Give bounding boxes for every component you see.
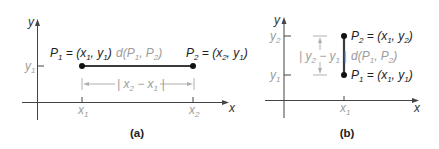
panel-a-dimension-right-arrow-icon: [187, 82, 193, 86]
panel-b-y2-tick-label: y2: [269, 29, 281, 45]
panel-a-x-axis-label: x: [228, 101, 236, 115]
panel-b-point-p1: [341, 72, 347, 78]
panel-a-point-p2: [190, 63, 196, 69]
panel-b-p2-label: P2 = (x1, y2): [351, 29, 413, 45]
panel-a-dimension-left-arrow-icon: [83, 82, 89, 86]
panel-a-distance-label: d(P1, P2): [116, 46, 162, 62]
panel-b-dimension-up-arrow-icon: [318, 37, 322, 43]
panel-a-p2-label: P2 = (x2, y1): [186, 46, 248, 62]
panel-b-y1-tick-label: y1: [269, 68, 280, 84]
panel-a-point-p1: [79, 63, 85, 69]
panel-b-y-axis-label: y: [273, 13, 281, 27]
panel-b-point-p2: [341, 33, 347, 39]
panel-a-p1-label: P1 = (x1, y1): [50, 46, 112, 62]
panel-a-y-axis-arrow-icon: [35, 19, 40, 26]
panel-b-p1-label: P1 = (x1, y1): [351, 68, 413, 84]
panel-b-dimension-down-arrow-icon: [318, 68, 322, 74]
panel-b-x1-tick-label: x1: [339, 101, 350, 117]
panel-b-y-axis-arrow-icon: [282, 17, 287, 24]
panel-a-y-axis-label: y: [27, 15, 35, 29]
panel-a-caption: (a): [130, 127, 144, 139]
panel-b-difference-label: | y2 − y1 |: [299, 49, 347, 65]
panel-b-caption: (b): [340, 127, 355, 139]
panel-a-x1-tick-label: x1: [77, 103, 88, 119]
panel-a-y1-tick-label: y1: [24, 59, 35, 75]
distance-formula-figure: y x y1 x1 x2 P1 = (x1, y1) d(P1, P2) P2 …: [0, 0, 439, 149]
panel-a-difference-label: | x2 − x1 |: [117, 77, 165, 93]
panel-a-x2-tick-label: x2: [188, 103, 200, 119]
panel-a-horizontal-distance: y x y1 x1 x2 P1 = (x1, y1) d(P1, P2) P2 …: [22, 15, 248, 139]
panel-b-x-axis-label: x: [413, 101, 421, 115]
panel-a-x-axis-arrow-icon: [222, 100, 229, 105]
panel-b-vertical-distance: y x y2 y1 x1 P2 = (x1, y2) d(P1, P2) P1 …: [265, 13, 421, 139]
panel-b-distance-label: d(P1, P2): [351, 49, 397, 65]
